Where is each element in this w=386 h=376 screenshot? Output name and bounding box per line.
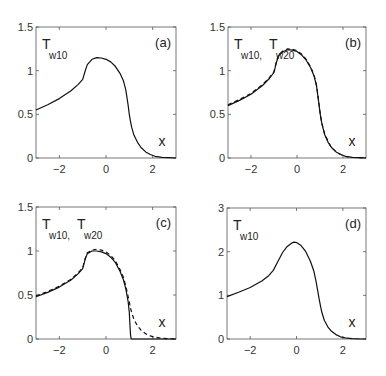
series-t-w10-line (228, 50, 366, 158)
y-tick-label: 1.5 (18, 21, 33, 33)
y-tick-label: 1.5 (210, 21, 225, 33)
chart-panel-d: −2020123Tw10(d)x (218, 202, 366, 356)
chart-panel-c: −20200.511.5Tw10,Tw20(c)x (18, 201, 176, 356)
variable-subscript: w10, (240, 50, 262, 61)
x-axis-label: x (159, 133, 166, 149)
y-tick-label: 0 (27, 152, 33, 164)
x-tick-label: −2 (245, 163, 258, 175)
y-tick-label: 3 (218, 202, 224, 214)
y-tick-label: 0.5 (18, 289, 33, 301)
series-t-w10-line (36, 251, 176, 339)
variable-subscript: w10 (239, 231, 259, 242)
variable-subscript: w10, (48, 230, 70, 241)
y-tick-label: 0 (218, 333, 224, 345)
y-tick-label: 1 (27, 65, 33, 77)
y-tick-label: 0 (219, 152, 225, 164)
x-tick-label: −2 (244, 344, 257, 356)
x-tick-label: 2 (340, 163, 346, 175)
y-tick-label: 1 (27, 245, 33, 257)
panel-label: (b) (345, 35, 361, 50)
x-tick-label: 2 (150, 344, 156, 356)
variable-subscript: w20 (83, 230, 103, 241)
x-tick-label: 0 (294, 163, 300, 175)
panel-label: (a) (155, 35, 171, 50)
y-tick-label: 0.5 (18, 108, 33, 120)
y-tick-label: 0 (27, 333, 33, 345)
y-tick-label: 1.5 (18, 201, 33, 213)
y-tick-label: 1 (219, 65, 225, 77)
x-tick-label: −2 (53, 163, 66, 175)
x-tick-label: 0 (103, 344, 109, 356)
variable-subscript: w20 (275, 50, 295, 61)
x-axis-label: x (159, 314, 166, 330)
panel-label: (c) (156, 215, 171, 230)
x-axis-label: x (349, 314, 356, 330)
series-t-w20-line (228, 49, 366, 158)
x-axis-label: x (349, 133, 356, 149)
chart-panel-b: −20200.511.5Tw10,Tw20(b)x (210, 21, 366, 175)
series-t-w10-line (36, 58, 176, 158)
variable-subscript: w10 (48, 50, 68, 61)
x-tick-label: 2 (150, 163, 156, 175)
x-tick-label: 0 (293, 344, 299, 356)
y-tick-label: 1 (218, 289, 224, 301)
panel-label: (d) (345, 216, 361, 231)
series-t-w20-line (36, 249, 176, 339)
y-tick-label: 2 (218, 246, 224, 258)
y-tick-label: 0.5 (210, 108, 225, 120)
series-t-w10-line (227, 242, 366, 339)
x-tick-label: 2 (340, 344, 346, 356)
figure: −20200.511.5Tw10(a)x−20200.511.5Tw10,Tw2… (0, 0, 386, 376)
x-tick-label: 0 (103, 163, 109, 175)
x-tick-label: −2 (53, 344, 66, 356)
chart-panel-a: −20200.511.5Tw10(a)x (18, 21, 176, 175)
